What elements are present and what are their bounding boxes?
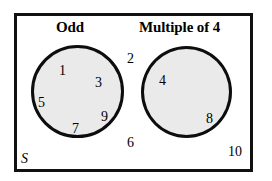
set-label-odd: Odd [56,19,84,36]
element-outside-6: 6 [127,136,134,150]
element-odd-1: 1 [59,64,66,78]
set-label-multiple-of-4: Multiple of 4 [139,19,220,36]
element-odd-7: 7 [72,122,79,136]
element-odd-3: 3 [95,76,102,90]
universal-set-label: S [21,151,28,167]
element-outside-2: 2 [127,52,134,66]
element-odd-5: 5 [38,96,45,110]
set-circle-multiple-of-4 [141,46,232,138]
venn-diagram-figure: Odd Multiple of 4 1 3 5 9 7 4 8 2 6 10 S [0,0,272,181]
element-multiple-of-4-4: 4 [159,74,166,88]
element-odd-9: 9 [101,110,108,124]
element-outside-10: 10 [228,145,242,159]
element-multiple-of-4-8: 8 [206,112,213,126]
